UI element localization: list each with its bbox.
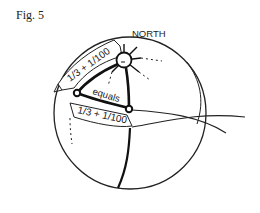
right-node-icon bbox=[126, 106, 132, 112]
dotted-meridian bbox=[70, 118, 72, 144]
curve-a bbox=[132, 110, 226, 133]
curve-b bbox=[132, 116, 245, 127]
left-node-icon bbox=[74, 90, 80, 96]
sphere-diagram: 1/3 + 1/100 NORTH equals 1/3 + 1/100 bbox=[0, 0, 260, 213]
meridian-lower bbox=[118, 128, 130, 188]
north-label: NORTH bbox=[132, 28, 166, 39]
meridian-right bbox=[126, 68, 129, 108]
